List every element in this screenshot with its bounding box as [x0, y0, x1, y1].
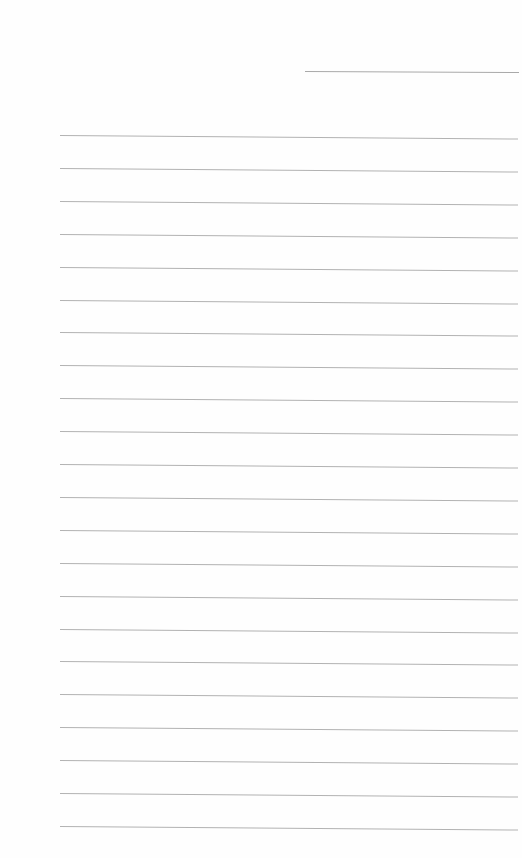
ruled-line — [60, 300, 518, 305]
ruled-line — [60, 629, 518, 634]
ruled-line — [60, 530, 518, 535]
ruled-line — [60, 431, 518, 436]
ruled-line — [60, 694, 518, 699]
ruled-line — [60, 168, 518, 173]
ruled-line — [60, 201, 518, 206]
ruled-line — [60, 727, 518, 732]
ruled-line — [60, 760, 518, 765]
ruled-line — [60, 596, 518, 601]
ruled-line — [60, 332, 518, 337]
ruled-line — [60, 234, 518, 239]
header-name-line — [305, 71, 519, 73]
ruled-line — [60, 398, 518, 403]
ruled-line — [60, 497, 518, 502]
ruled-line — [60, 464, 518, 469]
ruled-line — [60, 365, 518, 370]
lined-paper-page — [0, 0, 522, 858]
ruled-line — [60, 267, 518, 272]
ruled-line — [60, 135, 518, 140]
ruled-line — [60, 661, 518, 666]
ruled-line — [60, 826, 518, 831]
ruled-line — [60, 793, 518, 798]
ruled-line — [60, 563, 518, 568]
